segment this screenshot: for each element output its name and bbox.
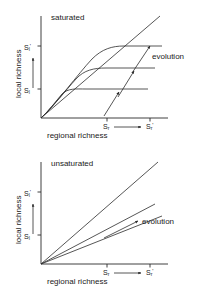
- saturated-plot-svg: [0, 0, 201, 146]
- evolution-arrow-1: [104, 221, 138, 238]
- saturating-curve-mid: [41, 68, 155, 118]
- y-tick-label-Sl: Sl: [24, 231, 30, 242]
- evolution-arrow-2: [118, 71, 134, 97]
- x-tick-label-Sr-prime: Sr': [146, 267, 154, 278]
- evolution-arrow-1: [104, 92, 119, 116]
- y-axis-label-saturated: local richness: [14, 50, 23, 98]
- y-axis-label-unsaturated: local richness: [14, 196, 23, 244]
- evolution-label-unsaturated: evolution: [142, 217, 174, 226]
- y-tick-label-Sl-prime: Sl': [24, 42, 31, 53]
- x-tick-label-Sr-prime: Sr': [146, 121, 154, 132]
- panel-saturated: saturated local richness regional richne…: [0, 0, 201, 146]
- saturating-curve-low: [41, 89, 148, 118]
- y-tick-label-Sl-prime: Sl': [24, 188, 31, 199]
- saturating-curve-high: [41, 46, 162, 118]
- y-tick-label-Sl: Sl: [24, 85, 30, 96]
- x-axis-label-unsaturated: regional richness: [47, 277, 107, 286]
- x-axis-label-saturated: regional richness: [47, 131, 107, 140]
- x-tick-label-Sr: Sr: [103, 121, 109, 132]
- evolution-label-saturated: evolution: [152, 52, 184, 61]
- panel-unsaturated: unsaturated local richness regional rich…: [0, 146, 201, 292]
- proportional-line-middle: [41, 204, 155, 264]
- panel-title-unsaturated: unsaturated: [51, 159, 93, 168]
- panel-title-saturated: saturated: [51, 13, 84, 22]
- evolution-arrow-3: [132, 46, 150, 73]
- proportional-line-steep: [41, 162, 158, 264]
- x-tick-label-Sr: Sr: [103, 267, 109, 278]
- reference-diagonal-line: [41, 16, 160, 118]
